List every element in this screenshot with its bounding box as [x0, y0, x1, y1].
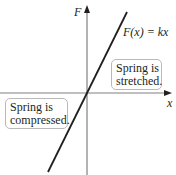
compressed-line2: compressed.: [10, 114, 63, 127]
stretched-label-box: Spring is stretched.: [111, 59, 162, 90]
x-axis-label: x: [167, 97, 172, 109]
line-equation-label: F(x) = kx: [123, 26, 168, 38]
y-axis-label: F: [74, 6, 81, 18]
y-axis-arrow-icon: [84, 5, 90, 13]
stretched-line2: stretched.: [116, 75, 157, 88]
compressed-label-box: Spring is compressed.: [5, 98, 68, 129]
